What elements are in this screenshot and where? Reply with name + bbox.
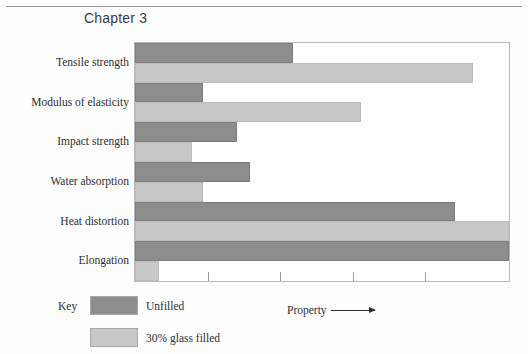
- category-label: Water absorption: [4, 175, 129, 187]
- category-label: Heat distortion: [4, 215, 129, 227]
- category-label: Impact strength: [4, 135, 129, 147]
- legend-swatch-unfilled: [90, 296, 138, 315]
- bar: [135, 162, 250, 182]
- bar: [135, 202, 455, 222]
- bar-chart-plot-area: [134, 42, 510, 282]
- bar: [135, 122, 237, 142]
- bar: [135, 142, 192, 162]
- category-label: Tensile strength: [4, 56, 129, 68]
- bar-group: [135, 83, 509, 123]
- bar-group: [135, 202, 509, 242]
- x-axis-tick: [280, 272, 281, 281]
- category-label: Modulus of elasticity: [4, 96, 129, 108]
- bar: [135, 221, 509, 241]
- x-axis-tick: [208, 272, 209, 281]
- x-axis-tick: [425, 272, 426, 281]
- bar: [135, 241, 509, 261]
- legend-label-unfilled: Unfilled: [146, 300, 184, 312]
- figure-page: Chapter 3 Tensile strengthModulus of ela…: [0, 0, 528, 354]
- legend-item-unfilled: Unfilled: [90, 296, 184, 315]
- legend-label-glass-filled: 30% glass filled: [146, 332, 220, 344]
- bar: [135, 63, 473, 83]
- x-axis-title: Property: [287, 304, 375, 316]
- bar-group: [135, 241, 509, 281]
- bar: [135, 102, 361, 122]
- bar: [135, 261, 159, 281]
- x-axis-tick: [353, 272, 354, 281]
- legend-swatch-glass-filled: [90, 328, 138, 347]
- x-axis-title-text: Property: [287, 304, 327, 316]
- bar-group: [135, 122, 509, 162]
- plot-inner: [135, 43, 509, 281]
- legend-item-glass-filled: 30% glass filled: [90, 328, 220, 347]
- bar-group: [135, 43, 509, 83]
- bar: [135, 43, 293, 63]
- bar: [135, 83, 203, 103]
- arrow-right-icon: [331, 310, 375, 311]
- legend-key-label: Key: [58, 300, 77, 312]
- bar-group: [135, 162, 509, 202]
- category-label: Elongation: [4, 254, 129, 266]
- bar: [135, 182, 203, 202]
